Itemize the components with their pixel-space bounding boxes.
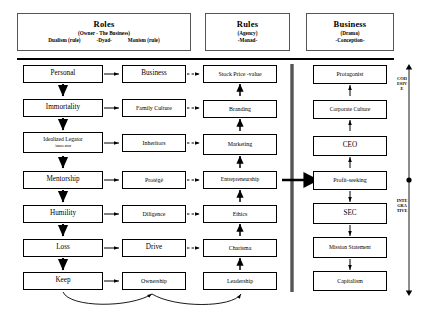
node-stock-price[interactable]: Stock Price -value	[203, 65, 277, 83]
node-label: Idealized Legator	[43, 137, 82, 143]
header-rules-subtitle: (Agency)	[238, 31, 258, 36]
node-loss[interactable]: Loss	[23, 239, 103, 257]
node-label: Ownership	[141, 278, 167, 284]
node-mentorship[interactable]: Mentorship	[23, 171, 103, 189]
node-label: Corporate Culture	[330, 107, 371, 113]
node-ceo[interactable]: CEO	[313, 136, 387, 156]
node-mission-statement[interactable]: Mission Statement	[313, 237, 387, 258]
header-business-term: -Conception-	[336, 38, 365, 43]
node-label: Protagonist	[337, 71, 364, 77]
node-label: Protégé	[145, 177, 163, 183]
node-label: Leadership	[227, 278, 253, 284]
node-label: Marketing	[228, 141, 253, 147]
header-roles-right-term: Monism (rule)	[128, 38, 160, 43]
node-protege[interactable]: Protégé	[122, 171, 186, 189]
node-label: Stock Price -value	[218, 71, 261, 77]
node-corporate-culture[interactable]: Corporate Culture	[313, 100, 387, 119]
node-label: Drive	[146, 244, 162, 252]
node-label: Branding	[229, 106, 251, 112]
header-roles-left-term: Dualism (rule)	[48, 38, 80, 43]
node-family-culture[interactable]: Family Culture	[122, 99, 186, 117]
node-label: Immortality	[46, 104, 80, 112]
node-diligence[interactable]: Diligence	[122, 205, 186, 223]
header-business-subtitle: (Drama)	[340, 31, 359, 36]
node-label: Charisma	[229, 245, 252, 251]
node-label: SEC	[343, 210, 356, 218]
node-personal[interactable]: Personal	[23, 65, 103, 83]
node-ownership[interactable]: Ownership	[122, 272, 186, 290]
node-label: Humility	[50, 210, 76, 218]
node-profit-seeking[interactable]: Profit-seeking	[313, 171, 387, 190]
node-entrepreneurship[interactable]: Entrepreneurship	[203, 171, 277, 189]
node-label: Personal	[51, 70, 76, 78]
node-label: Mentorship	[46, 176, 79, 184]
node-label: Keep	[55, 277, 70, 285]
side-label-integrative: INTEGRATIVE	[396, 198, 408, 213]
node-leadership[interactable]: Leadership	[203, 272, 277, 290]
node-label: Ethics	[233, 211, 248, 217]
header-rules: Rules (Agency) -Monad-	[205, 13, 290, 51]
node-business[interactable]: Business	[122, 65, 186, 83]
node-label: Inheritors	[143, 140, 166, 146]
header-rules-title: Rules	[237, 20, 258, 29]
header-roles-title: Roles	[94, 20, 115, 29]
node-keep[interactable]: Keep	[23, 272, 103, 290]
node-label: Entrepreneurship	[221, 177, 260, 183]
node-capitalism[interactable]: Capitalism	[313, 271, 387, 291]
node-marketing[interactable]: Marketing	[203, 134, 277, 155]
side-label-cohesive: COHESIVE	[396, 76, 408, 91]
header-roles: Roles (Owner - The Business) Dualism (ru…	[17, 13, 191, 51]
node-humility[interactable]: Humility	[23, 205, 103, 223]
header-business: Business (Drama) -Conception-	[306, 13, 394, 51]
header-rules-term: -Monad-	[238, 38, 257, 43]
header-business-title: Business	[334, 20, 367, 29]
node-inheritors[interactable]: Inheritors	[122, 134, 186, 152]
header-roles-subtitle: (Owner - The Business)	[78, 31, 130, 36]
node-immortality[interactable]: Immortality	[23, 99, 103, 117]
diagram-canvas: Roles (Owner - The Business) Dualism (ru…	[0, 0, 426, 318]
node-protagonist[interactable]: Protagonist	[313, 65, 387, 84]
node-ethics[interactable]: Ethics	[203, 205, 277, 223]
node-label: Mission Statement	[329, 245, 371, 251]
node-label: Business	[141, 70, 167, 78]
node-idealized-legator[interactable]: Idealized Legator /ancestor	[23, 132, 103, 153]
node-drive[interactable]: Drive	[122, 239, 186, 257]
node-branding[interactable]: Branding	[203, 100, 277, 118]
node-label: Capitalism	[337, 278, 363, 284]
header-roles-center-term: -Dyad-	[97, 38, 112, 43]
node-sec[interactable]: SEC	[313, 203, 387, 224]
node-label: Loss	[56, 244, 70, 252]
node-sublabel: /ancestor	[55, 144, 72, 149]
node-label: Profit-seeking	[333, 177, 366, 183]
header-divider	[17, 58, 394, 60]
node-label: Family Culture	[136, 105, 172, 111]
node-label: CEO	[343, 142, 357, 150]
node-label: Diligence	[143, 211, 166, 217]
header-roles-terms: Dualism (rule) -Dyad- Monism (rule)	[18, 38, 190, 43]
node-charisma[interactable]: Charisma	[203, 239, 277, 257]
